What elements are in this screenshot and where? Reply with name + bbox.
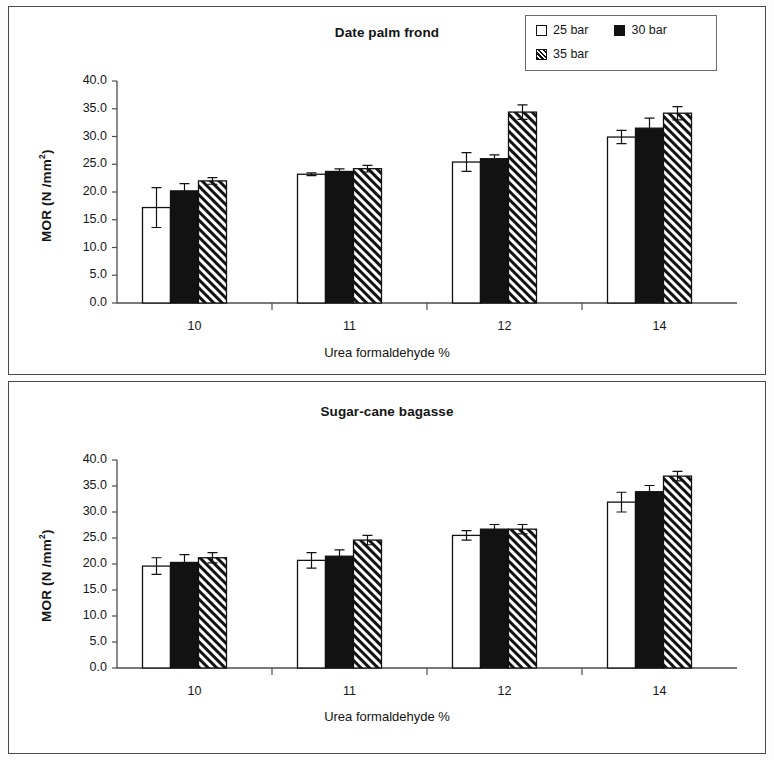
legend-swatch-white-icon [536,25,547,36]
legend-swatch-hatch-icon [536,49,547,60]
bar [664,476,692,668]
bar [509,529,537,668]
panel-sugar-cane-bagasse: Sugar-cane bagasse MOR (N /mm2) 0.05.010… [8,381,766,754]
y-tick-label: 30.0 [61,129,107,143]
bar [199,181,227,303]
legend-row-1: 25 bar 30 bar [536,23,706,37]
x-category-label: 11 [320,684,380,698]
y-tick-label: 40.0 [61,73,107,87]
bar [509,112,537,303]
plot-area-top: 0.05.010.015.020.025.030.035.040.0101112… [117,81,737,303]
panel-date-palm-frond: Date palm frond 25 bar 30 bar 35 bar [8,6,766,375]
bar [171,191,199,303]
y-tick-label: 35.0 [61,478,107,492]
chart-svg [117,81,774,317]
legend-item-30-bar[interactable]: 30 bar [614,23,666,37]
y-axis-title-top: MOR (N /mm2) [37,149,54,242]
bar [608,502,636,668]
legend-row-2: 35 bar [536,47,706,61]
x-axis-title-top: Urea formaldehyde % [9,345,765,360]
bar [354,169,382,303]
bar [481,529,509,668]
bar [326,171,354,303]
bar [199,558,227,668]
bar [453,162,481,303]
bar [664,113,692,303]
y-tick-label: 20.0 [61,556,107,570]
legend-label-35-bar: 35 bar [553,47,588,61]
bar [608,137,636,303]
bar [143,566,171,668]
y-tick-label: 0.0 [61,295,107,309]
y-tick-label: 15.0 [61,582,107,596]
y-tick-label: 10.0 [61,240,107,254]
y-tick-label: 40.0 [61,452,107,466]
bar [354,540,382,668]
figure-page: Date palm frond 25 bar 30 bar 35 bar [0,0,774,760]
plot-area-bottom: 0.05.010.015.020.025.030.035.040.0101112… [117,460,737,668]
x-category-label: 10 [165,319,225,333]
x-category-label: 11 [320,319,380,333]
y-tick-label: 5.0 [61,634,107,648]
x-category-label: 10 [165,684,225,698]
x-category-label: 14 [630,684,690,698]
legend-label-25-bar: 25 bar [553,23,588,37]
y-axis-title-bottom: MOR (N /mm2) [37,529,54,622]
y-tick-label: 30.0 [61,504,107,518]
y-tick-label: 15.0 [61,212,107,226]
x-category-label: 12 [475,319,535,333]
chart-title-bottom: Sugar-cane bagasse [9,404,765,419]
chart-svg [117,460,774,682]
bar [326,556,354,668]
y-tick-label: 20.0 [61,184,107,198]
y-tick-label: 25.0 [61,530,107,544]
bar [636,128,664,303]
bar [636,492,664,668]
x-category-label: 12 [475,684,535,698]
x-axis-title-bottom: Urea formaldehyde % [9,709,765,724]
bar [298,560,326,668]
bar [481,159,509,303]
y-tick-label: 10.0 [61,608,107,622]
legend-label-30-bar: 30 bar [631,23,666,37]
y-tick-label: 25.0 [61,156,107,170]
bar [298,174,326,303]
bar [453,535,481,668]
x-category-label: 14 [630,319,690,333]
legend-item-35-bar[interactable]: 35 bar [536,47,588,61]
y-tick-label: 5.0 [61,267,107,281]
y-tick-label: 0.0 [61,660,107,674]
y-tick-label: 35.0 [61,101,107,115]
bar [171,562,199,668]
legend-swatch-black-icon [614,25,625,36]
legend-item-25-bar[interactable]: 25 bar [536,23,588,37]
legend: 25 bar 30 bar 35 bar [525,15,717,71]
